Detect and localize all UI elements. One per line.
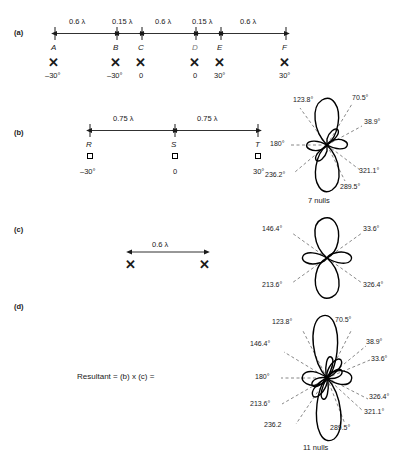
- panel-d-angle-321-1: 321.1°: [364, 408, 384, 415]
- panel-d-angle-180: 180°: [255, 373, 269, 380]
- panel-d-nulls-label: 11 nulls: [303, 443, 328, 452]
- panel-d-angle-70-5: 70.5°: [335, 316, 351, 323]
- panel-d-polar-pattern: [0, 0, 417, 466]
- panel-d-angle-236-2: 236.2: [264, 421, 282, 428]
- panel-d-angle-326-4: 326.4°: [369, 393, 389, 400]
- antenna-array-figure: (a) 0.6 λ 0.15 λ 0.6 λ: [0, 0, 417, 466]
- panel-d-angle-33-6: 33.6°: [371, 355, 387, 362]
- panel-d-angle-213-6: 213.6°: [250, 400, 270, 407]
- panel-d-angle-146-4: 146.4°: [250, 340, 270, 347]
- panel-d-angle-123-8: 123.8°: [272, 318, 292, 325]
- panel-d-angle-38-9: 38.9°: [366, 338, 382, 345]
- panel-d-angle-289-5: 289.5°: [330, 424, 350, 431]
